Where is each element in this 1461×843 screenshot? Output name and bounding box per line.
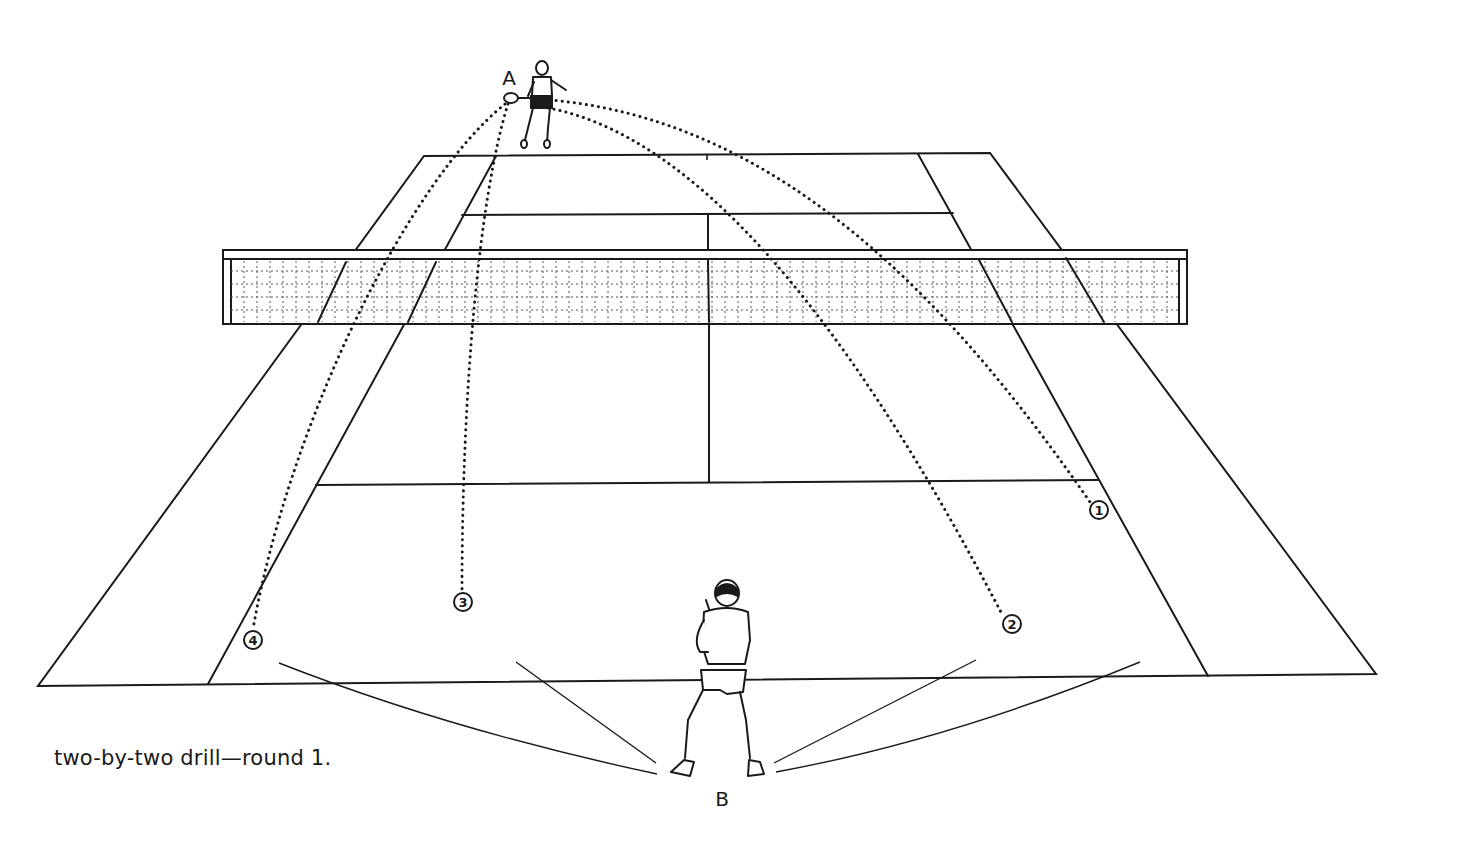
- player-a: A: [502, 61, 566, 148]
- player-a-label: A: [502, 66, 516, 90]
- trajectory-4: [253, 104, 505, 629]
- figure-caption: two-by-two drill—round 1.: [54, 746, 331, 770]
- player-b: B: [671, 580, 764, 811]
- near-service-line: [316, 480, 1098, 485]
- player-b-label: B: [715, 787, 729, 811]
- net: [223, 250, 1187, 324]
- direction-line-3: [516, 662, 656, 763]
- target-2: 2: [1003, 615, 1021, 633]
- direction-line-2: [774, 660, 976, 763]
- svg-text:1: 1: [1094, 503, 1103, 518]
- svg-text:3: 3: [458, 595, 467, 610]
- direction-line-4: [279, 663, 657, 774]
- tennis-court-diagram: 1 2 3 4 A: [0, 0, 1461, 843]
- left-singles-sideline: [208, 156, 496, 684]
- net-frame: [223, 250, 1187, 324]
- svg-text:2: 2: [1007, 617, 1016, 632]
- target-4: 4: [244, 631, 262, 649]
- target-1: 1: [1090, 501, 1108, 519]
- right-singles-sideline: [918, 154, 1208, 676]
- target-3: 3: [454, 593, 472, 611]
- ball-trajectories: [253, 100, 1090, 629]
- svg-text:4: 4: [248, 633, 257, 648]
